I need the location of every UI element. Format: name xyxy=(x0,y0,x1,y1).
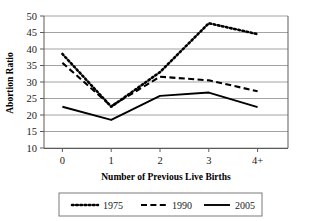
y-tick-label: 10 xyxy=(27,143,38,154)
y-tick-label: 50 xyxy=(27,11,38,22)
y-tick-label: 15 xyxy=(27,126,38,137)
y-tick-label: 20 xyxy=(27,110,38,121)
chart-container: Abortion Ratio 101520253035404550 01234+… xyxy=(0,0,318,221)
legend-label-2005: 2005 xyxy=(235,200,255,211)
x-tick-label: 4+ xyxy=(252,155,263,166)
x-tick-label: 2 xyxy=(157,155,162,166)
x-axis-title: Number of Previous Live Births xyxy=(101,172,231,182)
legend-label-1975: 1975 xyxy=(103,200,123,211)
chart-background xyxy=(0,0,318,221)
y-tick-label: 25 xyxy=(27,93,38,104)
legend-label-1990: 1990 xyxy=(172,200,192,211)
y-tick-label: 30 xyxy=(27,77,38,88)
abortion-ratio-line-chart: Abortion Ratio 101520253035404550 01234+… xyxy=(0,0,318,221)
y-axis-title: Abortion Ratio xyxy=(5,52,15,114)
x-tick-label: 1 xyxy=(109,155,114,166)
y-tick-labels: 101520253035404550 xyxy=(27,11,38,154)
y-tick-label: 35 xyxy=(27,60,38,71)
y-tick-label: 45 xyxy=(27,27,38,38)
x-tick-label: 3 xyxy=(206,155,211,166)
x-tick-label: 0 xyxy=(60,155,65,166)
y-tick-label: 40 xyxy=(27,44,38,55)
